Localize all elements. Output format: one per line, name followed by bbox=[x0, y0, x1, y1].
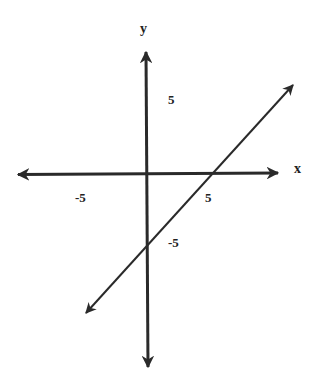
x-tick-label-5: 5 bbox=[205, 191, 212, 204]
y-tick-label-5: 5 bbox=[168, 93, 175, 106]
y-axis bbox=[146, 52, 148, 367]
coordinate-plane bbox=[0, 0, 317, 378]
x-tick-label-neg5: -5 bbox=[75, 191, 86, 204]
y-tick-label-neg5: -5 bbox=[168, 236, 179, 249]
x-axis-label: x bbox=[294, 162, 301, 176]
y-axis-label: y bbox=[140, 22, 147, 36]
plotted-line bbox=[86, 85, 293, 313]
